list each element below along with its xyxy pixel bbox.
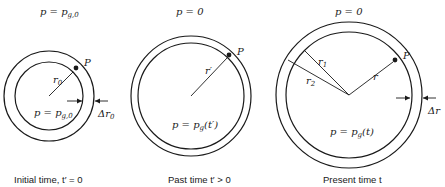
- inner-pressure-label: p = pg,0: [34, 107, 73, 120]
- point-p-label: P: [402, 50, 410, 61]
- panel-present: p = 0 P r r1 r2 Δr p = pg(t) Present tim…: [276, 6, 441, 185]
- caption-initial: Initial time, t′ = 0: [14, 174, 83, 185]
- spherical-shell-diagram: p = pg,0 P r0 Δr0 p = pg,0 Initial time,…: [0, 0, 445, 187]
- radius-label: r0: [53, 74, 63, 87]
- point-p-dot: [393, 58, 398, 63]
- point-p-label: P: [236, 46, 244, 57]
- top-pressure-label: p = pg,0: [40, 6, 79, 19]
- caption-past: Past time t′ > 0: [168, 174, 231, 185]
- inner-pressure-label: p = pg(t′): [172, 119, 218, 132]
- point-p-dot: [74, 66, 79, 71]
- radius-label: r′: [205, 65, 213, 76]
- top-pressure-label: p = 0: [176, 6, 204, 17]
- thickness-label: Δr: [427, 105, 441, 116]
- panel-initial: p = pg,0 P r0 Δr0 p = pg,0 Initial time,…: [4, 6, 115, 185]
- r1-line: [304, 50, 349, 95]
- point-p-label: P: [83, 57, 91, 68]
- radius-line: [191, 58, 227, 96]
- inner-pressure-label: p = pg(t): [330, 126, 374, 139]
- thickness-label: Δr0: [97, 108, 115, 121]
- point-p-dot: [227, 53, 232, 58]
- caption-present: Present time t: [323, 174, 382, 185]
- r-line: [349, 62, 393, 95]
- top-pressure-label: p = 0: [335, 6, 363, 17]
- panel-past: p = 0 P r′ p = pg(t′) Past time t′ > 0: [131, 6, 251, 185]
- r1-label: r1: [318, 56, 327, 69]
- r2-label: r2: [306, 75, 316, 88]
